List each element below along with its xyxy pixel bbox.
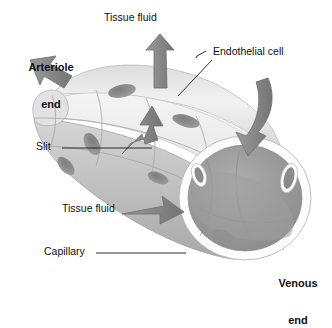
label-venous-end-line2: end bbox=[268, 314, 328, 326]
venous-end-cross-section bbox=[179, 136, 311, 260]
label-slit: Slit bbox=[36, 141, 51, 153]
label-endothelial-cell: Endothelial cell bbox=[213, 46, 284, 58]
label-capillary: Capillary bbox=[44, 246, 85, 258]
label-venous-end: Venous end bbox=[268, 252, 328, 328]
label-tissue-fluid-bottom: Tissue fluid bbox=[62, 203, 115, 215]
label-tissue-fluid-top: Tissue fluid bbox=[104, 12, 157, 24]
leader-endothelial-short bbox=[197, 51, 206, 56]
label-arteriole-end: Arteriole end bbox=[14, 36, 88, 135]
label-arteriole-end-line2: end bbox=[14, 98, 88, 110]
label-arteriole-end-line1: Arteriole bbox=[14, 61, 88, 73]
label-venous-end-line1: Venous bbox=[268, 277, 328, 289]
